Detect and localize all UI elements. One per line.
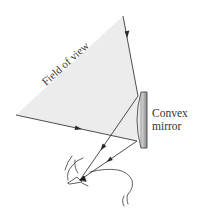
- mirror-label-line2: mirror: [152, 120, 182, 132]
- arrowhead-icon: [101, 144, 107, 151]
- arrowhead-icon: [107, 156, 113, 162]
- convex-mirror-diagram: Field of view Convex mirror: [0, 0, 203, 220]
- observer-head-icon: [65, 156, 133, 206]
- mirror-label-line1: Convex: [152, 107, 188, 119]
- convex-mirror: [137, 92, 147, 148]
- diagram-canvas: Field of view Convex mirror: [0, 0, 203, 220]
